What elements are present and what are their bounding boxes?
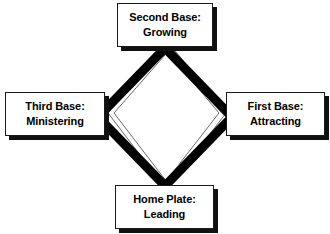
node-home-plate-line2: Leading bbox=[144, 207, 185, 222]
node-first-base-line1: First Base: bbox=[248, 99, 304, 114]
node-third-base[interactable]: Third Base: Ministering bbox=[5, 92, 105, 136]
base-path bbox=[98, 48, 232, 186]
node-second-base-line2: Growing bbox=[143, 25, 187, 40]
node-first-base[interactable]: First Base: Attracting bbox=[226, 92, 325, 136]
node-second-base-line1: Second Base: bbox=[129, 10, 201, 25]
outer-connector-path bbox=[108, 47, 219, 185]
node-third-base-line2: Ministering bbox=[26, 114, 84, 129]
diagram-canvas: Second Base: Growing Third Base: Ministe… bbox=[0, 0, 330, 234]
node-third-base-line1: Third Base: bbox=[25, 99, 84, 114]
node-first-base-line2: Attracting bbox=[250, 114, 301, 129]
outer-connector-path-secondary bbox=[114, 47, 226, 186]
node-home-plate-line1: Home Plate: bbox=[133, 192, 195, 207]
node-home-plate[interactable]: Home Plate: Leading bbox=[115, 185, 214, 229]
node-second-base[interactable]: Second Base: Growing bbox=[117, 3, 213, 47]
